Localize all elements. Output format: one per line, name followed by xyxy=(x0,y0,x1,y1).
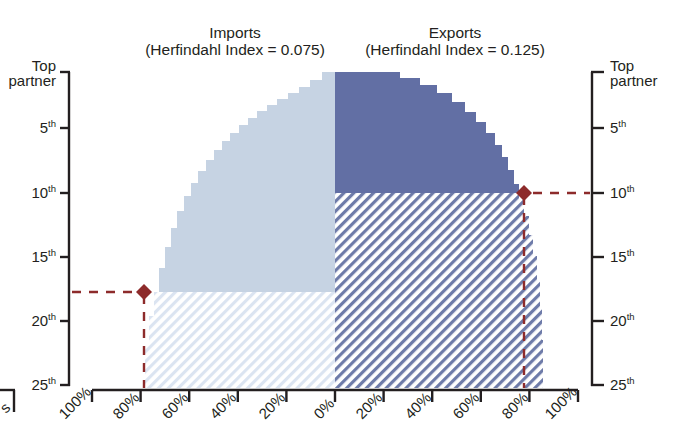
exports-panel-header: Exports (Herfindahl Index = 0.125) xyxy=(330,24,580,59)
y-right-top-line1: Top xyxy=(610,58,674,73)
x-axis xyxy=(92,390,578,402)
imports-title: Imports xyxy=(110,24,360,41)
imports-marker-diamond xyxy=(136,284,152,300)
y-left-tick-5: 5th xyxy=(18,118,56,136)
imports-area xyxy=(60,60,350,392)
y-left-top-line1: Top xyxy=(6,58,56,73)
exports-subtitle: (Herfindahl Index = 0.125) xyxy=(330,41,580,58)
y-right-tick-15: 15th xyxy=(610,247,635,265)
y-axis-left-top-label: Top partner xyxy=(6,58,56,89)
y-left-tick-25: 25th xyxy=(10,375,56,393)
y-right-tick-10: 10th xyxy=(610,183,635,201)
y-left-tick-10: 10th xyxy=(10,183,56,201)
y-axis-right-top-label: Top partner xyxy=(610,58,674,89)
y-left-top-line2: partner xyxy=(6,73,56,88)
imports-marker-guides xyxy=(72,284,152,388)
y-left-tick-20: 20th xyxy=(10,311,56,329)
y-axis-left xyxy=(60,72,70,386)
y-left-tick-15: 15th xyxy=(10,247,56,265)
y-right-tick-5: 5th xyxy=(610,118,626,136)
y-axis-right xyxy=(591,72,604,386)
chart-svg xyxy=(0,0,674,448)
chart-canvas: Imports (Herfindahl Index = 0.075) Expor… xyxy=(0,0,674,448)
y-right-top-line2: partner xyxy=(610,73,674,88)
imports-panel-header: Imports (Herfindahl Index = 0.075) xyxy=(110,24,360,59)
exports-area xyxy=(330,60,590,393)
y-right-tick-25: 25th xyxy=(610,375,635,393)
imports-subtitle: (Herfindahl Index = 0.075) xyxy=(110,41,360,58)
exports-title: Exports xyxy=(330,24,580,41)
y-right-tick-20: 20th xyxy=(610,311,635,329)
